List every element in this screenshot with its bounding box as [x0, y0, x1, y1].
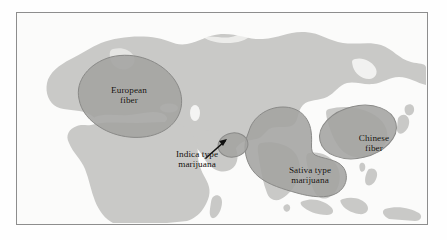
region-label-chinese-fiber-line1: Chinese: [339, 133, 409, 143]
region-label-chinese-fiber: Chinese fiber: [339, 133, 409, 154]
region-label-sativa-line2: marijuana: [267, 175, 353, 185]
region-label-indica-line2: marijuana: [159, 159, 235, 169]
world-map-graphic: [17, 13, 426, 223]
region-label-indica-type-marijuana: Indica type marijuana: [159, 149, 235, 170]
region-label-european-fiber: European fiber: [93, 85, 165, 106]
region-label-european-fiber-line1: European: [93, 85, 165, 95]
caspian-sea: [190, 105, 200, 121]
region-label-sativa-type-marijuana: Sativa type marijuana: [267, 165, 353, 186]
region-label-european-fiber-line2: fiber: [93, 95, 165, 105]
map-frame: European fiber Chinese fiber Sativa type…: [16, 12, 428, 225]
region-label-sativa-line1: Sativa type: [267, 165, 353, 175]
figure-root: European fiber Chinese fiber Sativa type…: [0, 0, 447, 240]
region-label-chinese-fiber-line2: fiber: [339, 143, 409, 153]
region-label-indica-line1: Indica type: [159, 149, 235, 159]
